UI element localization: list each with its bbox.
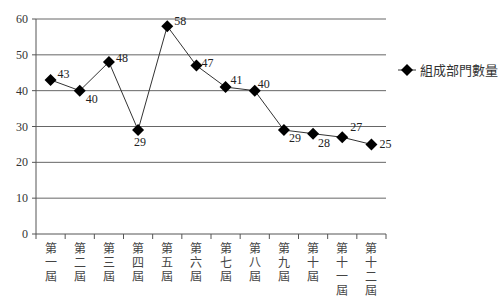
svg-text:十: 十 bbox=[307, 256, 319, 270]
svg-text:一: 一 bbox=[336, 270, 348, 284]
series-line bbox=[45, 20, 378, 150]
legend-diamond-icon bbox=[401, 64, 413, 76]
svg-text:屆: 屆 bbox=[278, 270, 290, 284]
y-tick-label: 40 bbox=[16, 84, 28, 98]
svg-text:第: 第 bbox=[132, 242, 144, 256]
diamond-marker-icon bbox=[45, 74, 57, 86]
data-label: 47 bbox=[201, 56, 213, 70]
svg-text:第: 第 bbox=[74, 242, 86, 256]
x-category-label: 第九屆 bbox=[278, 242, 290, 284]
y-tick-label: 60 bbox=[16, 12, 28, 26]
svg-text:第: 第 bbox=[161, 242, 173, 256]
y-tick-label: 20 bbox=[16, 155, 28, 169]
legend: 組成部門數量 bbox=[398, 63, 498, 78]
data-label: 48 bbox=[116, 51, 128, 65]
line-chart: 0102030405060 第一屆第二屆第三屆第四屆第五屆第六屆第七屆第八屆第九… bbox=[0, 0, 502, 305]
data-label: 29 bbox=[289, 131, 301, 145]
y-tick-label: 10 bbox=[16, 191, 28, 205]
svg-text:屆: 屆 bbox=[103, 270, 115, 284]
svg-text:三: 三 bbox=[103, 256, 115, 270]
svg-text:二: 二 bbox=[365, 270, 377, 284]
svg-text:屆: 屆 bbox=[336, 284, 348, 298]
svg-text:二: 二 bbox=[74, 256, 86, 270]
svg-text:五: 五 bbox=[161, 256, 173, 270]
svg-text:第: 第 bbox=[103, 242, 115, 256]
svg-text:十: 十 bbox=[365, 256, 377, 270]
x-category-label: 第三屆 bbox=[103, 242, 115, 284]
svg-text:屆: 屆 bbox=[365, 284, 377, 298]
svg-text:第: 第 bbox=[249, 242, 261, 256]
svg-text:第: 第 bbox=[190, 242, 202, 256]
svg-text:第: 第 bbox=[45, 242, 57, 256]
svg-text:七: 七 bbox=[220, 256, 232, 270]
diamond-marker-icon bbox=[161, 20, 173, 32]
data-label: 29 bbox=[134, 135, 146, 149]
y-tick-label: 0 bbox=[22, 227, 28, 241]
svg-text:屆: 屆 bbox=[190, 270, 202, 284]
data-label: 58 bbox=[174, 14, 186, 28]
diamond-marker-icon bbox=[365, 138, 377, 150]
svg-text:一: 一 bbox=[45, 256, 57, 270]
x-category-label: 第十屆 bbox=[307, 242, 319, 284]
svg-text:九: 九 bbox=[278, 256, 290, 270]
svg-text:四: 四 bbox=[132, 256, 144, 270]
x-category-label: 第十一屆 bbox=[336, 242, 348, 298]
svg-text:第: 第 bbox=[307, 242, 319, 256]
data-label: 41 bbox=[231, 73, 243, 87]
diamond-marker-icon bbox=[336, 131, 348, 143]
svg-text:屆: 屆 bbox=[161, 270, 173, 284]
x-category-label: 第一屆 bbox=[45, 242, 57, 284]
data-label: 40 bbox=[86, 92, 98, 106]
data-label: 40 bbox=[258, 77, 270, 91]
x-category-label: 第七屆 bbox=[220, 242, 232, 284]
svg-text:第: 第 bbox=[365, 242, 377, 256]
svg-text:八: 八 bbox=[249, 256, 261, 270]
svg-text:屆: 屆 bbox=[249, 270, 261, 284]
data-label: 27 bbox=[350, 120, 362, 134]
svg-text:六: 六 bbox=[190, 256, 202, 270]
svg-text:第: 第 bbox=[336, 242, 348, 256]
svg-text:屆: 屆 bbox=[307, 270, 319, 284]
x-category-label: 第六屆 bbox=[190, 242, 202, 284]
data-label: 28 bbox=[318, 136, 330, 150]
x-category-label: 第二屆 bbox=[74, 242, 86, 284]
axes bbox=[36, 19, 386, 239]
x-category-label: 第四屆 bbox=[132, 242, 144, 284]
data-label: 25 bbox=[379, 137, 391, 151]
data-label: 43 bbox=[58, 67, 70, 81]
y-axis-ticks: 0102030405060 bbox=[16, 12, 36, 241]
y-tick-label: 30 bbox=[16, 120, 28, 134]
y-tick-label: 50 bbox=[16, 48, 28, 62]
legend-label: 組成部門數量 bbox=[420, 63, 498, 78]
x-category-label: 第十二屆 bbox=[365, 242, 377, 298]
svg-text:第: 第 bbox=[220, 242, 232, 256]
x-axis-categories: 第一屆第二屆第三屆第四屆第五屆第六屆第七屆第八屆第九屆第十屆第十一屆第十二屆 bbox=[45, 242, 378, 298]
svg-text:屆: 屆 bbox=[132, 270, 144, 284]
svg-text:屆: 屆 bbox=[74, 270, 86, 284]
x-category-label: 第八屆 bbox=[249, 242, 261, 284]
x-category-label: 第五屆 bbox=[161, 242, 173, 284]
svg-text:十: 十 bbox=[336, 256, 348, 270]
gridlines bbox=[36, 19, 386, 198]
svg-text:屆: 屆 bbox=[220, 270, 232, 284]
svg-text:屆: 屆 bbox=[45, 270, 57, 284]
svg-text:第: 第 bbox=[278, 242, 290, 256]
